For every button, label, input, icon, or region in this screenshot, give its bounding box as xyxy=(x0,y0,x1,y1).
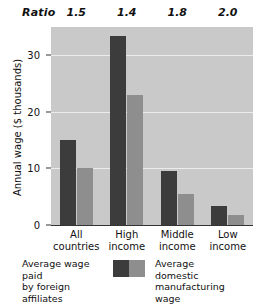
bar-low-income-series-1 xyxy=(211,206,227,225)
x-tick-label-middle-income: Middleincome xyxy=(150,229,204,252)
legend-right-line2: manufacturing wage xyxy=(155,281,225,304)
legend-left-line1: Average wage paid xyxy=(22,258,90,281)
legend-label-foreign-affiliates: Average wage paid by foreign affiliates xyxy=(22,258,107,304)
gridline-20 xyxy=(51,112,253,113)
bar-all-countries-series-1 xyxy=(60,140,76,225)
legend-label-domestic-wage: Average domestic manufacturing wage xyxy=(155,258,240,304)
y-tick-label-0: 0 xyxy=(6,220,40,231)
x-tick-line-1: High xyxy=(115,229,138,240)
legend-swatch-foreign-affiliates xyxy=(113,260,129,277)
x-tick-line-2: income xyxy=(209,241,246,252)
y-tick-label-10: 10 xyxy=(6,163,40,174)
plot-area xyxy=(51,27,253,225)
x-axis-line xyxy=(51,225,253,226)
ratio-value-all-countries: 1.5 xyxy=(56,6,96,19)
x-tick-line-2: countries xyxy=(53,241,99,252)
x-tick-label-high-income: Highincome xyxy=(100,229,154,252)
y-tick-label-30: 30 xyxy=(6,50,40,61)
y-tick-label-20: 20 xyxy=(6,106,40,117)
bar-middle-income-series-2 xyxy=(178,194,194,225)
ratio-value-high-income: 1.4 xyxy=(107,6,147,19)
legend-left-line2: by foreign affiliates xyxy=(22,281,70,304)
legend-swatch-domestic-wage xyxy=(129,260,145,277)
x-tick-line-1: All xyxy=(70,229,82,240)
ratio-value-middle-income: 1.8 xyxy=(157,6,197,19)
bar-high-income-series-2 xyxy=(127,95,143,225)
bar-low-income-series-2 xyxy=(228,215,244,225)
x-tick-line-2: income xyxy=(108,241,145,252)
x-tick-line-1: Low xyxy=(218,229,238,240)
ratio-annotation-row: Ratio 1.5 1.4 1.8 2.0 xyxy=(0,6,260,24)
ratio-row-label: Ratio xyxy=(22,6,55,19)
bar-middle-income-series-1 xyxy=(161,171,177,225)
x-tick-line-2: income xyxy=(159,241,196,252)
gridline-30 xyxy=(51,55,253,56)
ratio-value-low-income: 2.0 xyxy=(208,6,248,19)
x-tick-label-all-countries: Allcountries xyxy=(49,229,103,252)
y-axis-label: Annual wage ($ thousands) xyxy=(12,48,23,208)
legend-right-line1: Average domestic xyxy=(155,258,198,281)
x-tick-line-1: Middle xyxy=(161,229,194,240)
bar-all-countries-series-2 xyxy=(77,168,93,225)
bar-high-income-series-1 xyxy=(110,36,126,226)
chart-legend: Average wage paid by foreign affiliates … xyxy=(0,258,260,288)
x-tick-label-low-income: Lowincome xyxy=(201,229,255,252)
